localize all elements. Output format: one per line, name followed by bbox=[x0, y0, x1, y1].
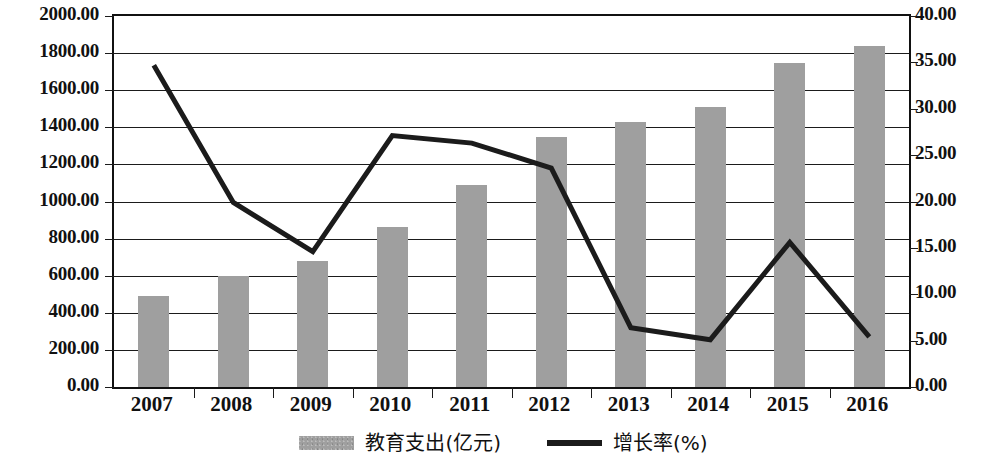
left-axis-tick-label: 2000.00 bbox=[39, 4, 99, 23]
line-swatch-icon bbox=[547, 440, 602, 446]
left-axis-tick-label: 1400.00 bbox=[39, 115, 99, 134]
x-axis-category-label: 2009 bbox=[271, 392, 351, 416]
right-axis-tick bbox=[909, 202, 918, 203]
left-axis-tick bbox=[105, 53, 114, 54]
left-axis-labels: 0.00200.00400.00600.00800.001000.001200.… bbox=[0, 0, 99, 457]
left-axis-tick bbox=[105, 350, 114, 351]
right-axis-labels: 0.005.0010.0015.0020.0025.0030.0035.0040… bbox=[915, 0, 1007, 457]
x-axis-category-label: 2013 bbox=[589, 392, 669, 416]
right-axis-tick-label: 20.00 bbox=[915, 190, 956, 209]
left-axis-tick-label: 800.00 bbox=[49, 227, 99, 246]
plot-area bbox=[112, 14, 911, 389]
right-axis-tick-label: 30.00 bbox=[915, 97, 956, 116]
right-axis-tick bbox=[909, 387, 918, 388]
left-axis-tick-label: 400.00 bbox=[49, 301, 99, 320]
right-axis-tick-label: 40.00 bbox=[915, 4, 956, 23]
right-axis-tick-label: 10.00 bbox=[915, 282, 956, 301]
left-axis-tick bbox=[105, 313, 114, 314]
x-axis-category-label: 2011 bbox=[430, 392, 510, 416]
legend-label-growth-rate: 增长率(%) bbox=[613, 432, 708, 454]
x-axis-category-label: 2015 bbox=[748, 392, 828, 416]
left-axis-tick bbox=[105, 276, 114, 277]
growth-rate-polyline bbox=[154, 65, 870, 340]
left-axis-tick-label: 0.00 bbox=[67, 375, 99, 394]
legend-item-education-expenditure: 教育支出(亿元) bbox=[299, 432, 501, 454]
bar-swatch-icon bbox=[299, 436, 354, 450]
left-axis-tick-label: 600.00 bbox=[49, 264, 99, 283]
line-series-growth-rate bbox=[114, 16, 909, 387]
left-axis-tick-label: 1000.00 bbox=[39, 190, 99, 209]
x-axis-category-label: 2014 bbox=[669, 392, 749, 416]
left-axis-tick-label: 200.00 bbox=[49, 338, 99, 357]
right-axis-tick bbox=[909, 62, 918, 63]
right-axis-tick bbox=[909, 248, 918, 249]
x-axis-category-label: 2012 bbox=[510, 392, 590, 416]
left-axis-tick bbox=[105, 164, 114, 165]
right-axis-tick bbox=[909, 294, 918, 295]
left-axis-tick-label: 1200.00 bbox=[39, 152, 99, 171]
x-axis-category-label: 2010 bbox=[351, 392, 431, 416]
left-axis-tick bbox=[105, 387, 114, 388]
right-axis-tick-label: 15.00 bbox=[915, 236, 956, 255]
right-axis-tick bbox=[909, 155, 918, 156]
left-axis-tick bbox=[105, 16, 114, 17]
dual-axis-chart: 0.00200.00400.00600.00800.001000.001200.… bbox=[0, 0, 1007, 457]
x-axis-category-label: 2008 bbox=[192, 392, 272, 416]
left-axis-tick bbox=[105, 127, 114, 128]
left-axis-tick-label: 1800.00 bbox=[39, 41, 99, 60]
legend-item-growth-rate: 增长率(%) bbox=[547, 432, 708, 454]
left-axis-tick bbox=[105, 90, 114, 91]
right-axis-tick bbox=[909, 109, 918, 110]
right-axis-tick bbox=[909, 341, 918, 342]
x-axis-category-label: 2016 bbox=[828, 392, 908, 416]
left-axis-tick-label: 1600.00 bbox=[39, 78, 99, 97]
x-axis-category-label: 2007 bbox=[112, 392, 192, 416]
right-axis-tick-label: 35.00 bbox=[915, 50, 956, 69]
right-axis-tick-label: 0.00 bbox=[915, 375, 947, 394]
left-axis-tick bbox=[105, 202, 114, 203]
chart-legend: 教育支出(亿元) 增长率(%) bbox=[0, 428, 1007, 457]
right-axis-tick-label: 5.00 bbox=[915, 329, 947, 348]
x-axis-category-labels: 2007200820092010201120122013201420152016 bbox=[112, 392, 907, 420]
legend-label-education-expenditure: 教育支出(亿元) bbox=[365, 432, 501, 454]
right-axis-tick bbox=[909, 16, 918, 17]
left-axis-tick bbox=[105, 239, 114, 240]
right-axis-tick-label: 25.00 bbox=[915, 143, 956, 162]
